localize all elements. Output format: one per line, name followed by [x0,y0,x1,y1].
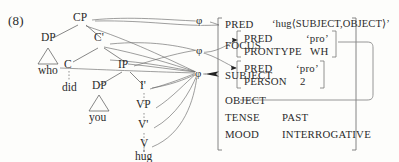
node-vbar: V' [138,119,148,131]
node-c: C [64,59,72,71]
triangle-you [89,95,109,111]
subject-value-person: 2 [300,76,306,87]
focus-value-prontype: WH [310,46,329,57]
attr-pred: PRED [225,19,254,30]
attr-mood: MOOD [225,129,259,140]
terminal-you: you [89,112,106,124]
example-number: (8) [8,14,24,27]
line-iprime [152,74,196,88]
terminal-did: did [62,82,77,94]
terminal-who: who [38,65,58,77]
outer-left-bracket [218,18,222,150]
node-dp-2: DP [92,80,107,92]
node-vp: VP [136,99,151,111]
node-cbar: C' [94,32,104,44]
value-pred: ‘hug⟨SUBJECT,OBJECT⟩’ [272,19,390,30]
subject-attr-pred: PRED [244,63,273,74]
triangle-who [38,48,58,64]
node-ibar: I' [140,80,146,92]
arrowhead-subject [205,71,219,77]
phi-fan-curves [60,26,197,147]
subject-attr-person: PERSON [244,76,287,87]
subject-right-bracket [320,61,324,88]
attr-tense: TENSE [225,112,260,123]
focus-attr-prontype: PRONTYPE [244,46,302,57]
node-ip: IP [118,59,128,71]
node-cp: CP [73,12,87,24]
phi-symbol-1: φ [196,15,202,26]
node-dp-1: DP [41,32,56,44]
subject-value-pred: ‘pro’ [296,63,319,74]
attr-object: OBJECT [225,95,266,106]
phi-symbol-2: φ [196,45,202,56]
focus-attr-pred: PRED [244,33,273,44]
terminal-hug: hug [135,151,152,162]
phi-symbol-3: φ [195,68,201,79]
node-v: V [140,138,148,150]
focus-right-bracket [332,31,336,57]
value-tense: PAST [282,112,308,123]
focus-value-pred: ‘pro’ [306,33,329,44]
lfg-correspondence-diagram: (8) CP DP C' C IP DP I' VP V' V who did … [0,0,399,162]
value-mood: INTERROGATIVE [282,129,371,140]
